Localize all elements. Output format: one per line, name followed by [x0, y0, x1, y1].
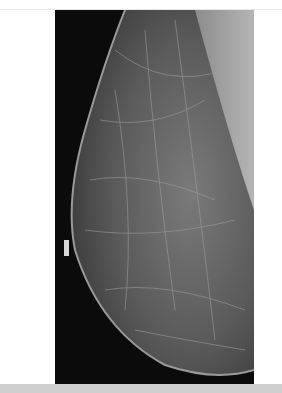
mammogram-image	[55, 10, 254, 384]
skin-marker	[64, 240, 69, 256]
breast-tissue-graphic	[55, 10, 254, 384]
bottom-band	[0, 384, 282, 393]
